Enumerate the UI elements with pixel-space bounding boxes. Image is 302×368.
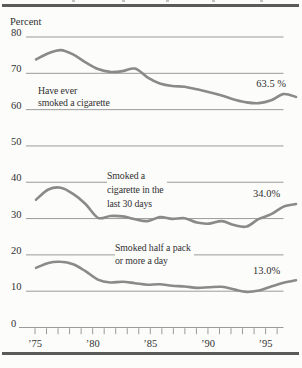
end-value-label-last-30-days: 34.0% [253, 188, 280, 199]
annotation-line: smoked a cigarette [38, 97, 110, 109]
annotation-half-pack-a-day: Smoked half a pack or more a day [115, 241, 194, 268]
x-tick-label: ’80 [86, 338, 100, 349]
annotation-line: Have ever [38, 85, 110, 97]
y-axis-label: 10 [11, 281, 22, 292]
chart-figure: 80706050403020100’75’80’85’90’95 Percent… [0, 0, 302, 368]
y-axis-label: 80 [11, 27, 22, 38]
annotation-line: last 30 days [107, 197, 164, 211]
y-axis-label: 60 [11, 100, 22, 111]
y-axis-title: Percent [10, 16, 42, 27]
end-value-label-half-pack: 13.0% [253, 265, 280, 276]
y-axis-label: 70 [11, 63, 22, 74]
x-tick-label: ’85 [143, 338, 157, 349]
y-axis-label: 40 [11, 172, 22, 183]
annotation-line: Smoked a [107, 169, 164, 183]
annotation-have-ever-smoked: Have ever smoked a cigarette [38, 85, 110, 108]
x-tick-label: ’90 [201, 338, 215, 349]
annotation-smoked-last-30-days: Smoked a cigarette in the last 30 days [107, 169, 167, 212]
y-axis-label: 50 [11, 136, 22, 147]
y-axis-label: 20 [11, 245, 22, 256]
annotation-line: cigarette in the [107, 183, 164, 197]
end-value-label-have-ever: 63.5 % [246, 78, 286, 89]
x-tick-label: ’75 [28, 338, 42, 349]
y-axis-label: 0 [11, 318, 16, 329]
annotation-line: or more a day [115, 254, 191, 267]
bottom-rule [2, 352, 299, 355]
y-axis-label: 30 [11, 209, 22, 220]
annotation-line: Smoked half a pack [115, 241, 191, 254]
x-tick-label: ’95 [259, 338, 273, 349]
